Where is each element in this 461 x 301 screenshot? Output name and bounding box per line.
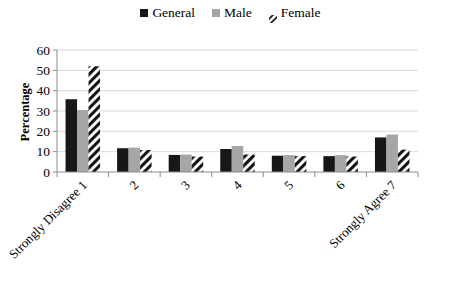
x-tick-label: Strongly Agree 7 [326,177,400,251]
y-tick-label: 10 [37,144,51,159]
bar-female-3 [192,157,204,172]
bar-general-6 [323,156,335,172]
bar-female-2 [140,150,152,172]
x-tick-label: 3 [178,178,193,193]
y-axis-ticks: 0102030405060 [37,43,58,180]
bar-female-6 [346,157,358,172]
bar-male-7 [386,135,398,172]
x-tick-label: 5 [281,178,296,193]
x-tick-label: 2 [126,178,141,193]
bar-male-5 [283,155,295,172]
bar-female-1 [89,66,101,172]
bar-general-4 [220,149,232,172]
y-tick-label: 40 [37,83,51,98]
bar-male-6 [335,155,347,172]
bar-male-3 [180,155,192,172]
x-tick-label: Strongly Disagree 1 [6,178,90,262]
bar-general-7 [375,137,387,172]
x-axis-ticks: Strongly Disagree 123456Strongly Agree 7 [6,172,418,262]
bar-female-5 [295,156,307,172]
bar-general-3 [169,155,181,172]
plot-area: 0102030405060 Strongly Disagree 123456St… [0,0,461,301]
y-tick-label: 30 [37,104,51,119]
bar-male-2 [129,148,141,172]
bar-general-1 [66,99,78,172]
y-tick-label: 0 [43,165,50,180]
bar-general-5 [272,156,284,172]
figure-caption [8,290,448,301]
gridlines [57,50,418,152]
y-tick-label: 60 [37,43,51,58]
bar-chart: 0102030405060 Strongly Disagree 123456St… [0,0,461,301]
y-tick-label: 50 [37,63,51,78]
bars-layer [66,66,410,172]
bar-male-1 [77,110,89,172]
bar-male-4 [232,146,244,172]
y-tick-label: 20 [37,124,51,139]
bar-female-4 [243,155,255,172]
bar-female-7 [398,150,410,172]
y-axis-title: Percentage [18,82,32,141]
x-tick-label: 4 [229,177,245,193]
figure-container: General Male Female [0,0,461,301]
bar-general-2 [117,148,129,172]
x-tick-label: 6 [333,177,349,193]
